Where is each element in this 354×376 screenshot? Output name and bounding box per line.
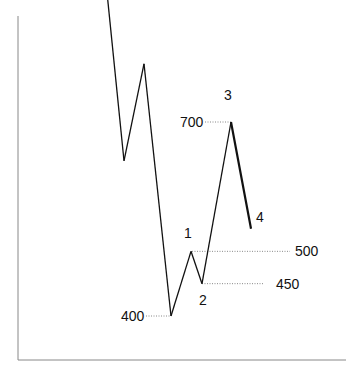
- line-segment-6: [191, 251, 202, 283]
- line-segment-2: [91, 0, 124, 161]
- line-segment-5: [171, 251, 191, 316]
- level-label-400: 400: [121, 308, 145, 324]
- elliott-wave-chart: 4005004507001234: [0, 0, 354, 376]
- wave-label-4: 4: [256, 209, 264, 225]
- wave-label-1: 1: [184, 225, 192, 241]
- wave-label-2: 2: [199, 292, 207, 308]
- line-segment-7: [202, 122, 231, 284]
- line-segment-4: [144, 64, 171, 316]
- line-segment-8: [231, 122, 251, 229]
- wave-label-3: 3: [224, 87, 232, 103]
- level-label-450: 450: [276, 276, 300, 292]
- level-label-500: 500: [295, 243, 319, 259]
- level-label-700: 700: [180, 114, 204, 130]
- line-segment-3: [124, 64, 144, 161]
